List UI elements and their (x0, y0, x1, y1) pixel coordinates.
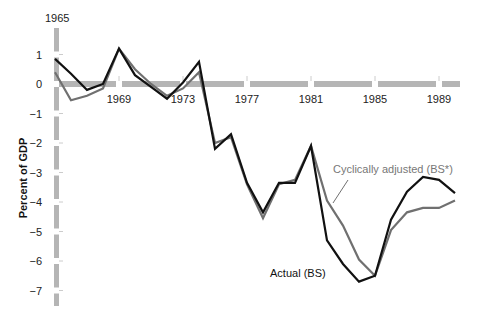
annotation-actual: Actual (BS) (270, 267, 326, 279)
annotation-adjusted: Cyclically adjusted (BS*) (333, 163, 453, 175)
y-tick-label: −7 (29, 285, 42, 297)
y-tick-label: −4 (29, 196, 42, 208)
y-tick-label: −5 (29, 226, 42, 238)
y-axis-title: Percent of GDP (17, 138, 29, 219)
x-tick-label: 1977 (235, 93, 259, 105)
y-tick-label: −2 (29, 137, 42, 149)
y-tick-label: −6 (29, 255, 42, 267)
y-tick-label: 1 (36, 49, 42, 61)
corner-year-label: 1965 (45, 12, 69, 24)
x-tick-label: 1985 (363, 93, 387, 105)
y-tick-label: 0 (36, 78, 42, 90)
y-tick-label: −3 (29, 167, 42, 179)
x-tick-label: 1969 (107, 93, 131, 105)
x-tick-label: 1989 (427, 93, 451, 105)
annotation-leader-adjusted (333, 180, 348, 203)
x-tick-label: 1973 (171, 93, 195, 105)
y-tick-label: −1 (29, 108, 42, 120)
x-tick-label: 1981 (299, 93, 323, 105)
budget-balance-chart: 1−1−2−3−4−5−6−70196919731977198119851989… (0, 0, 481, 320)
